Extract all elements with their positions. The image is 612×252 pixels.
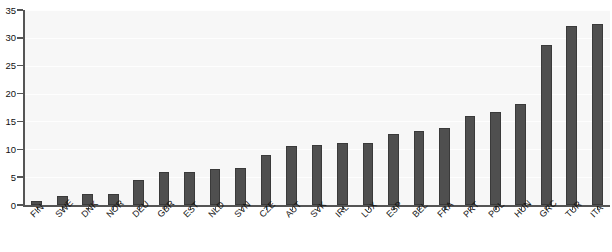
grid-line (24, 94, 610, 95)
y-axis-tick-label: 15 (0, 117, 16, 126)
y-axis-tick-label: 5 (0, 173, 16, 182)
grid-line (24, 10, 610, 11)
y-axis-tick-label: 0 (0, 201, 16, 210)
grid-line (24, 66, 610, 67)
bar (414, 131, 425, 205)
bar (312, 145, 323, 205)
bar (286, 146, 297, 205)
bar (515, 104, 526, 205)
y-axis-tick (17, 65, 23, 66)
y-axis-tick (17, 37, 23, 38)
bar (261, 155, 272, 205)
y-axis-tick (17, 9, 23, 10)
bar (490, 112, 501, 205)
y-axis-tick-label: 35 (0, 6, 16, 15)
y-axis-tick (17, 121, 23, 122)
y-axis-tick-label: 10 (0, 145, 16, 154)
bar (388, 134, 399, 205)
y-axis-tick (17, 93, 23, 94)
y-axis-tick-labels: 05101520253035 (0, 0, 16, 252)
y-axis-tick-label: 30 (0, 33, 16, 42)
y-axis-line (23, 10, 25, 206)
y-axis-tick-label: 25 (0, 61, 16, 70)
bar-chart-figure: 05101520253035 FINSWEDNKNORDEUGBRESTNLDS… (0, 0, 612, 252)
y-axis-tick (17, 176, 23, 177)
bar (541, 45, 552, 205)
y-axis-tick (17, 149, 23, 150)
y-axis-tick-label: 20 (0, 89, 16, 98)
bar (566, 26, 577, 205)
bar (337, 143, 348, 205)
grid-line (24, 38, 610, 39)
bar (363, 143, 374, 205)
bar (592, 24, 603, 205)
bar (439, 128, 450, 205)
bar (465, 116, 476, 205)
